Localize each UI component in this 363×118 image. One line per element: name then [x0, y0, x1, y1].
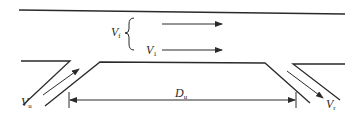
onramp-outer-edge: [21, 61, 70, 105]
label-weaving-length: Du: [174, 86, 188, 101]
label-freeway-flow: Vf: [111, 25, 121, 40]
label-lane1-flow: V1: [146, 43, 157, 58]
freeway-top-edge: [19, 10, 345, 14]
offramp-flow-arrow: [287, 71, 323, 98]
brace-icon: [125, 18, 134, 50]
weaving-diagram: Vf V1 Vu Vr Du: [0, 0, 363, 118]
label-offramp-flow: Vr: [326, 97, 336, 112]
